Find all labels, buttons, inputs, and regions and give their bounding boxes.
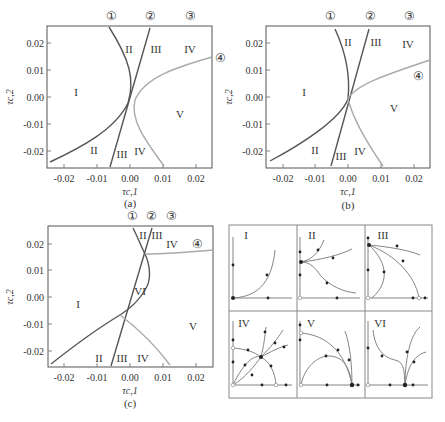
x-tick: -0.02 — [54, 372, 75, 383]
curve-marker-2: ② — [145, 9, 156, 23]
region-label: II — [95, 352, 103, 364]
y-tick: -0.02 — [23, 146, 44, 157]
phase-portrait-II: II — [298, 229, 360, 300]
x-tick: 0.01 — [372, 173, 390, 184]
panel-b: -0.02 -0.01 0.00 0.01 0.02 0.02 0.01 0.0… — [223, 9, 430, 212]
region-label: IV — [402, 38, 414, 50]
panel-caption: (b) — [342, 199, 355, 212]
curve-marker-1: ① — [325, 9, 336, 23]
phase-portrait-V: V — [299, 317, 360, 387]
region-label: V — [176, 108, 184, 120]
region-label: V — [189, 320, 197, 332]
x-tick: -0.02 — [54, 173, 75, 184]
phase-portrait-VI: VI — [366, 317, 428, 387]
x-tick: 0.00 — [339, 173, 357, 184]
y-tick: -0.01 — [23, 319, 44, 330]
y-tick: 0.01 — [246, 65, 264, 76]
region-label: III — [336, 150, 347, 162]
phase-portrait-I: I — [231, 229, 292, 300]
x-axis-label: τc,1 — [340, 186, 356, 197]
x-tick: -0.02 — [273, 173, 294, 184]
y-axis-label: τc,2 — [4, 289, 15, 305]
x-tick: 0.00 — [121, 173, 139, 184]
y-tick: 0.01 — [27, 65, 45, 76]
phase-portrait-IV: IV — [231, 317, 292, 387]
x-tick: 0.01 — [154, 372, 172, 383]
portrait-label: V — [307, 317, 315, 329]
curve-marker-3: ③ — [404, 9, 415, 23]
region-label: III — [117, 352, 128, 364]
y-tick: 0.00 — [27, 292, 45, 303]
x-tick: 0.02 — [405, 173, 423, 184]
x-tick: 0.02 — [187, 173, 205, 184]
curve-4 — [145, 250, 213, 254]
panel-a: -0.02 -0.01 0.00 0.01 0.02 0.02 0.01 0.0… — [4, 9, 226, 210]
curve-marker-1: ① — [106, 9, 117, 23]
region-label: III — [151, 43, 162, 55]
portrait-label: IV — [238, 317, 250, 329]
region-label: II — [344, 36, 352, 48]
portrait-label: I — [244, 229, 248, 241]
figure-canvas: -0.02 -0.01 0.00 0.01 0.02 0.02 0.01 0.0… — [0, 0, 445, 422]
curve-1 — [270, 29, 349, 161]
curve-marker-4: ④ — [215, 51, 226, 65]
curve-2 — [111, 228, 152, 366]
phase-portrait-III: III — [366, 229, 428, 300]
phase-portrait-grid: I II III — [229, 225, 432, 398]
curve-marker-4: ④ — [192, 237, 203, 251]
y-tick: -0.01 — [242, 119, 263, 130]
region-label: II — [139, 229, 147, 241]
y-axis-label: τc,2 — [223, 89, 234, 105]
x-axis-label: τc,1 — [122, 385, 138, 396]
y-tick: 0.00 — [27, 92, 45, 103]
x-axis-label: τc,1 — [122, 186, 138, 197]
curve-marker-3: ③ — [185, 9, 196, 23]
x-tick: 0.00 — [121, 372, 139, 383]
region-label: I — [74, 86, 78, 98]
region-label: IV — [134, 145, 146, 157]
region-label: VI — [134, 285, 146, 297]
y-tick: 0.01 — [27, 265, 45, 276]
y-tick: 0.00 — [246, 92, 264, 103]
region-label: IV — [166, 238, 178, 250]
y-tick: -0.01 — [23, 119, 44, 130]
y-axis-label: τc,2 — [4, 89, 15, 105]
x-tick: 0.02 — [187, 372, 205, 383]
y-tick: 0.02 — [27, 38, 45, 49]
curve-marker-1: ① — [127, 209, 138, 223]
plot-frame — [48, 226, 213, 367]
portrait-label: VI — [374, 317, 386, 329]
x-tick: -0.01 — [305, 173, 326, 184]
region-label: I — [302, 86, 306, 98]
x-tick: -0.01 — [87, 173, 108, 184]
x-tick: 0.01 — [154, 173, 172, 184]
region-label: V — [390, 102, 398, 114]
portrait-label: II — [308, 229, 316, 241]
panel-c: -0.02 -0.01 0.00 0.01 0.02 0.02 0.01 0.0… — [4, 209, 213, 410]
portrait-label: III — [378, 229, 389, 241]
region-label: IV — [184, 43, 196, 55]
y-tick: 0.02 — [246, 38, 264, 49]
x-tick: -0.01 — [87, 372, 108, 383]
curve-marker-2: ② — [146, 209, 157, 223]
region-label: I — [76, 298, 80, 310]
region-label: IV — [354, 145, 366, 157]
curve-marker-4: ④ — [413, 69, 424, 83]
region-label: III — [152, 229, 163, 241]
panel-caption: (c) — [124, 397, 137, 410]
y-tick: -0.02 — [23, 346, 44, 357]
region-label: IV — [137, 352, 149, 364]
region-label: II — [90, 144, 98, 156]
y-tick: -0.02 — [242, 146, 263, 157]
curve-marker-2: ② — [365, 9, 376, 23]
curve-marker-3: ③ — [166, 209, 177, 223]
y-tick: 0.02 — [27, 239, 45, 250]
region-label: II — [311, 144, 319, 156]
region-label: III — [117, 148, 128, 160]
region-label: III — [371, 36, 382, 48]
region-label: II — [125, 43, 133, 55]
curve-1 — [50, 27, 131, 162]
